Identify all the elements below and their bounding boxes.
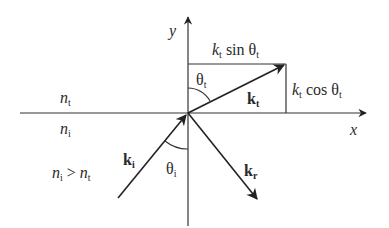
refraction-diagram: y x nt ni ni>nt ktsinθt ktcosθt θt θi kt… [0,0,389,228]
top-medium-label: nt [60,89,71,108]
bottom-medium-label: ni [60,120,71,139]
y-axis-label: y [167,22,177,40]
kr-vector-label: kr [244,162,258,181]
x-axis-label: x [349,121,357,138]
theta-t-label: θt [196,71,207,90]
kt-vector-label: kt [247,90,260,109]
ki-vector-label: ki [123,151,135,170]
kt-sin-label: ktsinθt [212,41,259,60]
theta-i-arc [165,141,188,149]
theta-i-label: θi [166,160,177,179]
theta-t-arc [188,88,210,101]
index-condition-label: ni>nt [52,164,91,183]
kr-vector [188,113,257,199]
kt-cos-label: ktcosθt [292,81,342,100]
